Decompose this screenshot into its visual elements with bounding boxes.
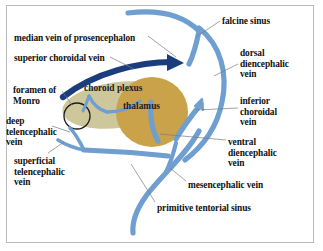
label-primitive-tentorial-sinus: primitive tentorial sinus (157, 203, 251, 214)
label-median-vein-of-prosencephalon: median vein of prosencephalon (14, 33, 135, 44)
label-ventral-diencephalic-vein: ventral diencephalic vein (228, 137, 277, 169)
label-dorsal-diencephalic-vein: dorsal diencephalic vein (240, 48, 289, 80)
label-superior-choroidal-vein: superior choroidal vein (14, 53, 105, 64)
label-superficial-telencephalic-vein: superficial telencephalic vein (14, 156, 65, 188)
label-deep-telencephalic-vein: deep telencephalic vein (6, 116, 57, 148)
leader-mesencephalic (170, 168, 186, 181)
basal-vein-vessel (84, 150, 168, 156)
label-foramen-of-monro: foramen of Monro (13, 85, 56, 106)
label-choroid-plexus: choroid plexus (84, 83, 142, 94)
label-falcine-sinus: falcine sinus (222, 16, 270, 27)
figure-canvas: median vein of prosencephalon superior c… (0, 0, 323, 251)
label-mesencephalic-vein: mesencephalic vein (188, 180, 263, 191)
label-inferior-choroidal-vein: inferior choroidal vein (240, 96, 277, 128)
median-vein-of-prosencephalon-vessel (128, 12, 199, 31)
leader-median-vein (148, 36, 176, 57)
label-thalamus: thalamus (123, 101, 160, 112)
